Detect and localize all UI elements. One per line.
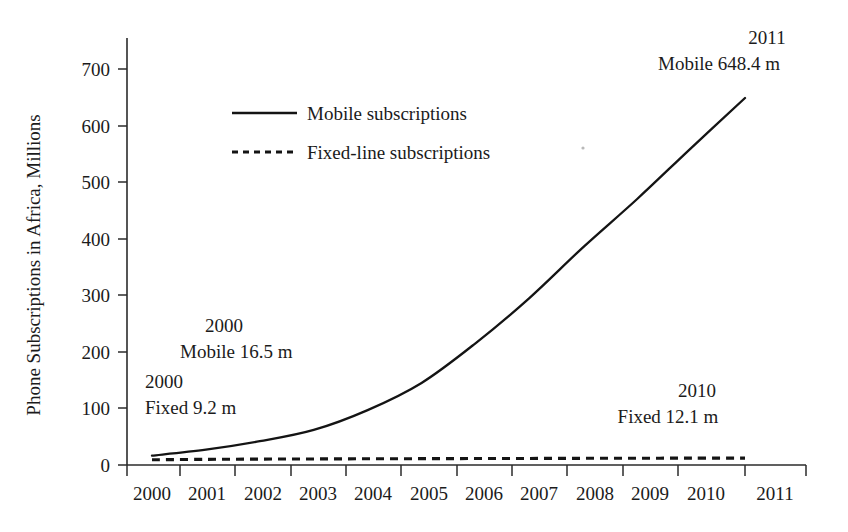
y-tick-label-600: 600 bbox=[82, 116, 111, 137]
annotation-mobile-2000-year: 2000 bbox=[205, 315, 243, 336]
annotation-fixed-2000-year: 2000 bbox=[145, 371, 183, 392]
x-tick-label-2009: 2009 bbox=[631, 483, 669, 504]
y-tick-label-700: 700 bbox=[82, 59, 111, 80]
annotation-mobile-2011-value: Mobile 648.4 m bbox=[658, 53, 780, 74]
legend-label-fixed: Fixed-line subscriptions bbox=[307, 142, 490, 163]
annotation-fixed-2000: 2000 Fixed 9.2 m bbox=[145, 371, 237, 418]
y-tick-label-300: 300 bbox=[82, 285, 111, 306]
annotation-mobile-2000-value: Mobile 16.5 m bbox=[180, 341, 293, 362]
x-tick-label-2005: 2005 bbox=[410, 483, 448, 504]
annotation-fixed-2010: 2010 Fixed 12.1 m bbox=[618, 380, 719, 427]
chart-legend: Mobile subscriptions Fixed-line subscrip… bbox=[232, 103, 490, 163]
legend-label-mobile: Mobile subscriptions bbox=[307, 103, 467, 124]
y-axis-tick-labels: 0 100 200 300 400 500 600 700 bbox=[82, 59, 111, 476]
line-chart: Phone Subscriptions in Africa, Millions … bbox=[0, 0, 848, 532]
y-tick-label-100: 100 bbox=[82, 398, 111, 419]
chart-page: Phone Subscriptions in Africa, Millions … bbox=[0, 0, 848, 532]
x-tick-label-2003: 2003 bbox=[299, 483, 337, 504]
x-tick-label-2011: 2011 bbox=[756, 483, 793, 504]
x-axis-ticks bbox=[127, 465, 806, 476]
annotation-mobile-2000: 2000 Mobile 16.5 m bbox=[180, 315, 293, 362]
x-tick-label-2002: 2002 bbox=[244, 483, 282, 504]
y-tick-label-0: 0 bbox=[101, 455, 111, 476]
annotation-fixed-2010-year: 2010 bbox=[678, 380, 716, 401]
x-tick-label-2008: 2008 bbox=[576, 483, 614, 504]
y-tick-label-400: 400 bbox=[82, 229, 111, 250]
y-tick-label-500: 500 bbox=[82, 172, 111, 193]
x-tick-label-2007: 2007 bbox=[520, 483, 558, 504]
annotation-fixed-2010-value: Fixed 12.1 m bbox=[618, 406, 719, 427]
y-axis-title: Phone Subscriptions in Africa, Millions bbox=[23, 114, 44, 415]
x-tick-label-2010: 2010 bbox=[687, 483, 725, 504]
x-tick-label-2001: 2001 bbox=[188, 483, 226, 504]
x-axis-tick-labels: 2000 2001 2002 2003 2004 2005 2006 2007 … bbox=[133, 483, 794, 504]
x-tick-label-2006: 2006 bbox=[465, 483, 503, 504]
annotation-mobile-2011-year: 2011 bbox=[748, 27, 785, 48]
x-tick-label-2004: 2004 bbox=[354, 483, 393, 504]
y-tick-label-200: 200 bbox=[82, 342, 111, 363]
series-fixed-line bbox=[152, 458, 745, 460]
annotation-fixed-2000-value: Fixed 9.2 m bbox=[145, 397, 237, 418]
annotation-mobile-2011: 2011 Mobile 648.4 m bbox=[658, 27, 786, 74]
y-axis-ticks bbox=[118, 69, 127, 465]
x-tick-label-2000: 2000 bbox=[133, 483, 171, 504]
scan-speck bbox=[581, 146, 584, 149]
